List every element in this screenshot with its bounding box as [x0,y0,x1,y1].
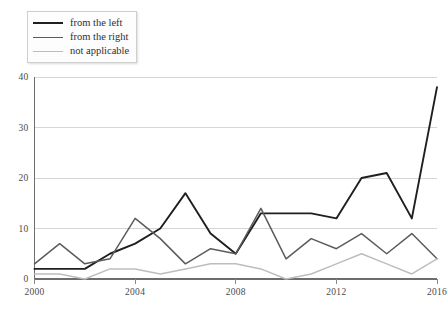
y-tick-label-10: 10 [18,224,28,234]
x-tick-label-2000: 2000 [24,287,44,297]
series-line-not-applicable [35,254,438,279]
gridlines-group [35,77,438,229]
tickmarks-group [35,279,438,284]
legend-item-not-applicable: not applicable [33,44,129,58]
line-chart: 010203040 20002004200820122016 from the … [0,0,448,312]
legend-label-not-applicable: not applicable [70,44,129,58]
y-tick-label-0: 0 [23,274,28,284]
legend-label-from-the-right: from the right [70,30,128,44]
legend-item-from-the-right: from the right [33,30,129,44]
legend-swatch-from-the-right [33,37,63,38]
y-tick-label-30: 30 [18,123,28,133]
x-tick-label-2008: 2008 [226,287,246,297]
legend-label-from-the-left: from the left [70,16,122,30]
x-tick-label-2012: 2012 [326,287,346,297]
y-tick-label-40: 40 [18,72,28,82]
legend-swatch-not-applicable [33,51,63,52]
series-line-from-the-right [35,208,438,264]
legend-item-from-the-left: from the left [33,16,129,30]
y-axis-labels: 010203040 [18,72,28,284]
y-tick-label-20: 20 [18,173,28,183]
x-axis-labels: 20002004200820122016 [24,287,447,297]
data-series-group [35,87,438,279]
legend-swatch-from-the-left [33,22,63,24]
x-tick-label-2004: 2004 [125,287,145,297]
chart-legend: from the left from the right not applica… [27,11,137,63]
x-tick-label-2016: 2016 [427,287,447,297]
